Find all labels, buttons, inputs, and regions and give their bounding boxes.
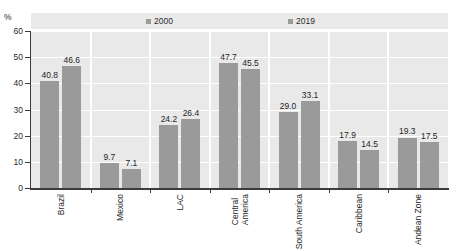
y-axis-tick [25,188,30,189]
bar [301,101,320,188]
x-axis-tick [329,189,330,193]
x-axis-tick [388,189,389,193]
x-axis-category-label: Mexico [116,194,126,221]
chart-title-strip [0,0,470,9]
x-axis-category-label: South America [295,194,305,249]
y-axis-tick [25,110,30,111]
x-axis-category-label: CentralAmerica [231,194,250,225]
legend-item[interactable]: 2000 [146,15,173,27]
y-axis-tick [25,136,30,137]
y-axis-label: 60 [0,26,23,36]
x-axis-category-label: LAC [176,194,186,211]
bar [181,119,200,188]
y-axis-label: 40 [0,78,23,88]
bar [100,163,119,188]
y-axis-tick [25,57,30,58]
bar-value-label: 14.5 [356,139,383,149]
x-axis-category-label: Caribbean [355,194,365,233]
group-separator [209,31,211,188]
bar [62,66,81,188]
x-axis-category-label: Andean Zone [414,194,424,245]
legend-swatch-icon [288,19,293,24]
group-separator [328,31,330,188]
legend-item[interactable]: 2019 [288,15,315,27]
y-axis-tick [25,83,30,84]
y-axis-tick [25,31,30,32]
y-axis-label: 10 [0,157,23,167]
group-separator [149,31,151,188]
chart-legend: 20002019 [31,13,448,29]
bar [122,169,141,188]
bar [279,112,298,188]
gridline [31,31,448,32]
x-axis-tick [210,189,211,193]
x-axis-category-label: Brazil [57,194,67,215]
group-separator [387,31,389,188]
gridline [31,110,448,111]
bar [40,81,59,188]
bar-value-label: 33.1 [297,90,324,100]
x-axis-tick [269,189,270,193]
bar [338,141,357,188]
group-separator [90,31,92,188]
y-axis-tick [25,162,30,163]
gridline [31,83,448,84]
x-axis-line [30,188,449,190]
y-axis-label: 50 [0,52,23,62]
bar-value-label: 7.1 [118,158,145,168]
bar [420,142,439,188]
legend-label: 2019 [296,15,315,27]
bar [159,125,178,188]
legend-swatch-icon [146,19,151,24]
y-axis-label: 30 [0,105,23,115]
bar-value-label: 40.8 [36,70,63,80]
bar [360,150,379,188]
gridline [31,136,448,137]
legend-label: 2000 [154,15,173,27]
x-axis-tick [150,189,151,193]
bar-value-label: 17.5 [416,131,443,141]
bar-value-label: 46.6 [58,55,85,65]
bar-value-label: 26.4 [177,108,204,118]
bar [398,138,417,189]
bar-value-label: 29.0 [275,101,302,111]
bar [219,63,238,188]
y-axis-label: 20 [0,131,23,141]
y-axis-unit-label: % [4,12,12,22]
bar [241,69,260,188]
bar-value-label: 45.5 [237,58,264,68]
group-separator [268,31,270,188]
y-axis-line [30,31,31,189]
gridline [31,162,448,163]
y-axis-label: 0 [0,183,23,193]
x-axis-tick [91,189,92,193]
